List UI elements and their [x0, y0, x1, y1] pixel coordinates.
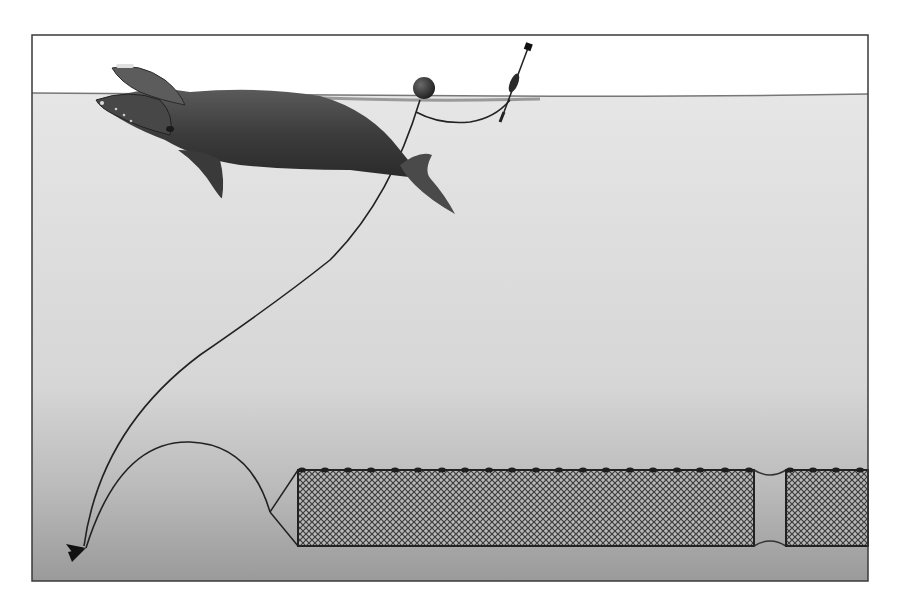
gillnet-panel-2	[786, 470, 868, 546]
gillnet-panel-1	[298, 470, 754, 546]
whale-entanglement-illustration	[0, 0, 898, 611]
surface-buoy	[413, 77, 435, 99]
